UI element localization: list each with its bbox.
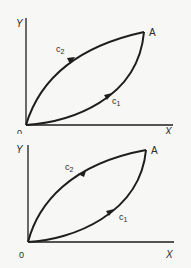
origin-label: 0: [19, 250, 24, 260]
curve-c2-label: c2: [56, 44, 65, 55]
point-a-label: A: [149, 27, 156, 38]
diagram-top-svg: Y X 0 A c2 c1: [0, 0, 191, 134]
point-a-label: A: [151, 145, 158, 156]
curve-c1: [26, 32, 144, 125]
x-axis-label: X: [164, 126, 172, 134]
curve-c1-label: c1: [119, 212, 128, 223]
y-axis-label: Y: [16, 144, 24, 155]
diagram-bottom-svg: Y X 0 A c2 c1: [0, 134, 191, 268]
diagram-bottom: Y X 0 A c2 c1: [0, 134, 191, 268]
curve-c1-label: c1: [112, 96, 121, 107]
curve-c1: [28, 150, 146, 242]
curve-c2-label: c2: [65, 162, 74, 173]
x-axis-label: X: [165, 249, 173, 260]
diagram-top: Y X 0 A c2 c1: [0, 0, 191, 134]
y-axis-label: Y: [16, 18, 24, 29]
